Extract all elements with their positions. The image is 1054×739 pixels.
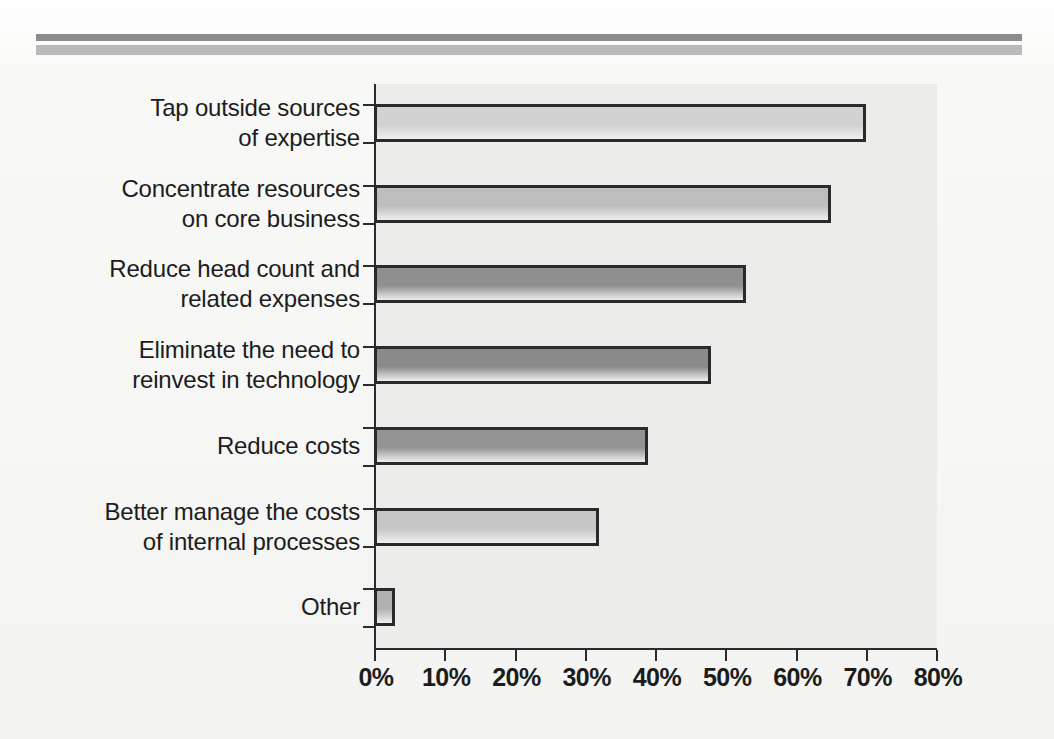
category-axis-tick xyxy=(363,142,375,144)
x-axis-tick-label: 80% xyxy=(908,663,968,692)
bar xyxy=(374,508,599,546)
bar xyxy=(374,265,746,303)
bar-chart: 0%10%20%30%40%50%60%70%80%Tap outside so… xyxy=(0,0,1054,739)
category-axis-tick xyxy=(363,346,375,348)
x-axis-tick-label: 70% xyxy=(838,663,898,692)
category-axis-tick xyxy=(363,104,375,106)
category-label-holder: Eliminate the need to reinvest in techno… xyxy=(20,335,360,395)
bar xyxy=(374,588,395,626)
x-axis-tick-label: 20% xyxy=(487,663,547,692)
x-axis-tick xyxy=(655,650,657,661)
x-axis-tick xyxy=(374,650,376,661)
x-axis-tick-label: 40% xyxy=(627,663,687,692)
category-axis-tick xyxy=(363,303,375,305)
x-axis-tick-label: 60% xyxy=(768,663,828,692)
category-axis-tick xyxy=(363,465,375,467)
category-label: Concentrate resources on core business xyxy=(20,174,360,234)
bar xyxy=(374,185,831,223)
bar xyxy=(374,104,866,142)
bar xyxy=(374,346,711,384)
x-axis-tick xyxy=(444,650,446,661)
category-label-holder: Reduce costs xyxy=(20,431,360,461)
x-axis-tick xyxy=(515,650,517,661)
chart-page: 0%10%20%30%40%50%60%70%80%Tap outside so… xyxy=(0,0,1054,739)
category-label-holder: Concentrate resources on core business xyxy=(20,174,360,234)
category-label: Other xyxy=(20,592,360,622)
category-axis-tick xyxy=(363,588,375,590)
category-label-holder: Reduce head count and related expenses xyxy=(20,254,360,314)
category-label-holder: Tap outside sources of expertise xyxy=(20,93,360,153)
category-axis-tick xyxy=(363,265,375,267)
x-axis-tick-label: 50% xyxy=(697,663,757,692)
x-axis-tick xyxy=(585,650,587,661)
x-axis-tick-label: 0% xyxy=(346,663,406,692)
x-axis-tick-label: 30% xyxy=(557,663,617,692)
category-label: Tap outside sources of expertise xyxy=(20,93,360,153)
category-axis-tick xyxy=(363,223,375,225)
category-label: Better manage the costs of internal proc… xyxy=(20,497,360,557)
bar xyxy=(374,427,648,465)
category-label: Reduce costs xyxy=(20,431,360,461)
category-label-holder: Better manage the costs of internal proc… xyxy=(20,497,360,557)
x-axis-tick-label: 10% xyxy=(416,663,476,692)
category-label: Eliminate the need to reinvest in techno… xyxy=(20,335,360,395)
category-axis-tick xyxy=(363,185,375,187)
category-axis-tick xyxy=(363,546,375,548)
x-axis-tick xyxy=(725,650,727,661)
category-axis-tick xyxy=(363,427,375,429)
category-label-holder: Other xyxy=(20,592,360,622)
x-axis-tick xyxy=(866,650,868,661)
category-axis-tick xyxy=(363,384,375,386)
x-axis-tick xyxy=(796,650,798,661)
category-label: Reduce head count and related expenses xyxy=(20,254,360,314)
category-axis-tick xyxy=(363,508,375,510)
x-axis-tick xyxy=(936,650,938,661)
category-axis-tick xyxy=(363,626,375,628)
